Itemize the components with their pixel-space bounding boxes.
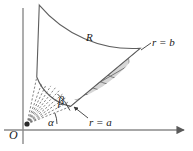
grid-arc [39, 19, 116, 86]
grid-arc [38, 48, 93, 96]
dashed-ray [27, 85, 46, 124]
grid-ray [52, 14, 92, 92]
grid-ray [46, 9, 75, 91]
grid-ray [40, 6, 58, 91]
dashed-ray [27, 90, 59, 124]
angle-alpha-label: α [48, 117, 54, 128]
inner-radius-leader [74, 107, 88, 118]
grid-ray [67, 57, 143, 101]
origin-dot [24, 121, 29, 126]
inner-radius-label: r = a [89, 117, 112, 128]
outer-radius-leader [141, 43, 151, 50]
region-label: R [86, 32, 93, 43]
polar-region-figure: O α β R r = a r = b [0, 0, 193, 151]
sector-band [0, 0, 193, 151]
angle-alpha-arc [55, 113, 57, 124]
outer-radius-label: r = b [152, 37, 175, 48]
angle-beta-label: β [58, 95, 64, 107]
figure-canvas [0, 0, 193, 151]
origin-label: O [9, 129, 18, 141]
